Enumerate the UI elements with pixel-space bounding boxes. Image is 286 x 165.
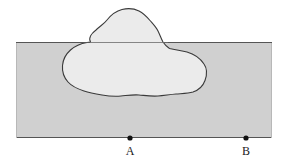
point-b-marker[interactable] — [243, 135, 248, 140]
cross-section-figure — [0, 0, 286, 165]
point-b-label: B — [236, 145, 256, 157]
figure-root: A B — [0, 0, 286, 165]
irregular-intrusion-outline — [62, 9, 206, 97]
point-a-label: A — [120, 145, 140, 157]
point-a-marker[interactable] — [127, 135, 132, 140]
